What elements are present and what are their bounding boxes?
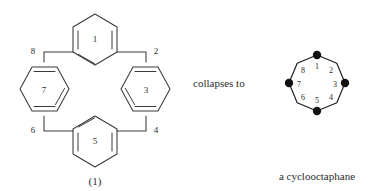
bridge-8-label: 8 [31,46,36,56]
octagon-vertex-labels: 1 2 3 4 5 6 7 8 [297,62,337,105]
cyclooctaphane-caption: a cyclooctaphane [279,170,355,182]
bridge-6-label: 6 [31,125,36,135]
benzene-ring-1: 1 [73,14,117,65]
octagon-label-8: 8 [301,66,305,75]
ring-5-double-bond-c [79,118,95,127]
structure-label: (1) [89,175,102,188]
octagon-label-1: 1 [315,62,319,71]
octagon-vertex-dot-1 [313,51,321,59]
bridge-2-bond [117,52,146,62]
octagon-vertex-dot-7 [285,79,293,87]
bridge-6-bond [44,116,73,131]
ring-5-label: 5 [93,136,98,146]
bridge-2-label: 2 [154,46,159,56]
cyclophane-structure-1: 1 3 5 [20,14,170,188]
ring-7-double-bond-c [56,89,65,105]
benzene-ring-3: 3 [121,67,170,111]
benzene-ring-7: 7 [20,67,69,111]
ring-1-label: 1 [93,34,98,44]
figure-canvas: 1 3 5 [0,0,382,191]
benzene-ring-5: 5 [73,116,117,167]
collapses-to-text: collapses to [193,77,245,89]
bridge-4-bond [117,116,146,131]
octagon-label-6: 6 [301,93,305,102]
octagon-label-4: 4 [329,93,333,102]
octagon-label-5: 5 [315,96,319,105]
octagon-vertex-dot-3 [341,79,349,87]
cyclooctaphane-octagon: 1 2 3 4 5 6 7 8 a cyclooctaphane [279,51,355,182]
ring-7-label: 7 [42,85,47,95]
bridge-4-label: 4 [154,125,159,135]
octagon-label-7: 7 [297,80,301,89]
ring-1-double-bond-c [79,55,95,64]
bridge-labels: 8 2 6 4 [31,46,159,135]
chemistry-figure: 1 3 5 [0,0,382,191]
ring-3-label: 3 [144,85,149,95]
ring-3-double-bond-c [126,89,135,105]
octagon-label-2: 2 [329,66,333,75]
octagon-label-3: 3 [333,80,337,89]
bridge-8-bond [44,52,73,62]
bridge-bonds [44,52,146,131]
octagon-vertex-dot-5 [313,107,321,115]
